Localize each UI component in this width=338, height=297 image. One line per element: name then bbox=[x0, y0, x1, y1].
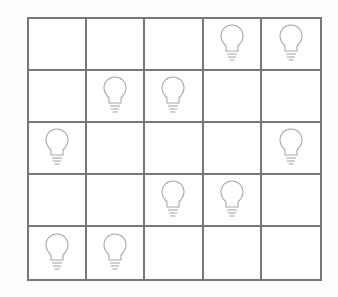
grid-cell-r1-c1[interactable] bbox=[29, 19, 87, 71]
lightbulb-icon bbox=[279, 128, 303, 168]
grid-cell-r3-c3[interactable] bbox=[145, 123, 203, 175]
lightbulb-icon bbox=[161, 180, 185, 220]
grid-cell-r2-c1[interactable] bbox=[29, 71, 87, 123]
grid-cell-r3-c4[interactable] bbox=[204, 123, 262, 175]
grid-cell-r3-c5[interactable] bbox=[262, 123, 320, 175]
grid-cell-r3-c1[interactable] bbox=[29, 123, 87, 175]
lightbulb-icon bbox=[45, 128, 69, 168]
grid-cell-r2-c2[interactable] bbox=[87, 71, 145, 123]
grid-cell-r1-c4[interactable] bbox=[204, 19, 262, 71]
grid-cell-r5-c5[interactable] bbox=[262, 227, 320, 279]
lightbulb-icon bbox=[161, 76, 185, 116]
grid-cell-r2-c3[interactable] bbox=[145, 71, 203, 123]
puzzle-board bbox=[27, 17, 322, 281]
lightbulb-icon bbox=[103, 233, 127, 273]
lightbulb-icon bbox=[103, 76, 127, 116]
grid-cell-r4-c1[interactable] bbox=[29, 175, 87, 227]
grid-cell-r1-c5[interactable] bbox=[262, 19, 320, 71]
grid-cell-r4-c5[interactable] bbox=[262, 175, 320, 227]
lightbulb-icon bbox=[279, 24, 303, 64]
grid-cell-r2-c5[interactable] bbox=[262, 71, 320, 123]
grid-cell-r1-c2[interactable] bbox=[87, 19, 145, 71]
lightbulb-icon bbox=[220, 24, 244, 64]
grid-cell-r5-c4[interactable] bbox=[204, 227, 262, 279]
grid-cell-r2-c4[interactable] bbox=[204, 71, 262, 123]
grid-cell-r4-c4[interactable] bbox=[204, 175, 262, 227]
grid-cell-r4-c2[interactable] bbox=[87, 175, 145, 227]
lightbulb-icon bbox=[220, 180, 244, 220]
lightbulb-icon bbox=[45, 233, 69, 273]
grid-cell-r5-c3[interactable] bbox=[145, 227, 203, 279]
grid-cell-r1-c3[interactable] bbox=[145, 19, 203, 71]
grid-cell-r3-c2[interactable] bbox=[87, 123, 145, 175]
grid-cell-r5-c1[interactable] bbox=[29, 227, 87, 279]
grid-cell-r5-c2[interactable] bbox=[87, 227, 145, 279]
grid-cell-r4-c3[interactable] bbox=[145, 175, 203, 227]
